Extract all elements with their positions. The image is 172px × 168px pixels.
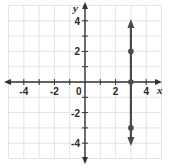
line-arrow-up-icon <box>127 19 134 28</box>
data-point <box>128 49 134 55</box>
y-tick-label: 4 <box>74 16 80 27</box>
x-tick-label: -4 <box>19 86 28 97</box>
x-tick-label: -2 <box>50 86 59 97</box>
line-arrow-down-icon <box>127 137 134 146</box>
x-axis-label: x <box>156 84 163 96</box>
axes <box>4 2 162 164</box>
x-tick-label: 0 <box>76 86 82 97</box>
y-tick-label: -4 <box>71 138 80 149</box>
data-point <box>128 79 134 85</box>
data-point <box>128 125 134 131</box>
y-axis-arrow-down-icon <box>82 157 88 164</box>
x-axis-arrow-left-icon <box>4 79 11 85</box>
y-tick-label: -2 <box>71 108 80 119</box>
y-axis-label: y <box>71 2 78 14</box>
x-tick-label: 2 <box>113 86 119 97</box>
x-tick-label: 4 <box>143 86 149 97</box>
y-tick-label: 2 <box>74 46 80 57</box>
plotted-line <box>127 19 134 146</box>
coordinate-plane: -4-202442-2-4 x y <box>0 0 172 168</box>
